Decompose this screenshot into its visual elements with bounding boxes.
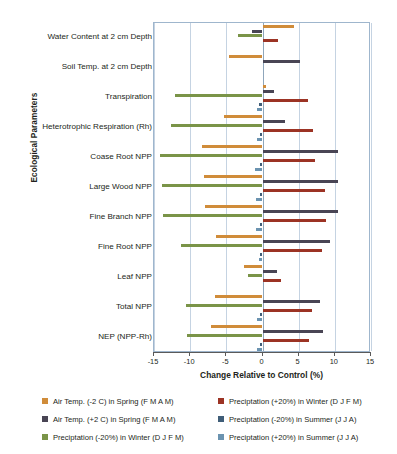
bar-segment <box>257 348 263 351</box>
bar-segment <box>187 334 262 337</box>
x-axis-tick-label: 0 <box>242 357 282 366</box>
bar <box>154 249 369 252</box>
bar-group <box>154 53 369 83</box>
bar-segment <box>211 325 262 328</box>
legend-swatch-icon <box>218 416 224 422</box>
bar-segment <box>160 154 263 157</box>
bar-segment <box>162 184 263 187</box>
category-label: Soil Temp. at 2 cm Depth <box>18 52 158 82</box>
legend-swatch-icon <box>42 434 48 440</box>
bar <box>154 343 369 346</box>
bar <box>154 69 369 72</box>
legend-label: Preciptation (-20%) in Winter (D J F M) <box>53 433 184 442</box>
bar-segment <box>263 219 327 222</box>
x-axis-tick-label: -10 <box>169 357 209 366</box>
legend-label: Air Temp. (+2 C) in Spring (F M A M) <box>53 415 175 424</box>
bar-segment <box>260 223 263 226</box>
bar <box>154 154 369 157</box>
bar <box>154 258 369 261</box>
bar <box>154 138 369 141</box>
bar <box>154 300 369 303</box>
bar-segment <box>229 55 262 58</box>
bar-segment <box>263 159 316 162</box>
bar <box>154 210 369 213</box>
bar-segment <box>256 198 263 201</box>
bar <box>154 30 369 33</box>
bar-segment <box>224 115 262 118</box>
x-axis-tick-label: 10 <box>314 357 354 366</box>
bar-segment <box>260 313 262 316</box>
bar-segment <box>257 138 262 141</box>
bar <box>154 334 369 337</box>
bar <box>154 90 369 93</box>
bar-segment <box>215 295 263 298</box>
bar-segment <box>263 330 323 333</box>
bar <box>154 103 369 106</box>
bar-group <box>154 233 369 263</box>
legend-item: Air Temp. (-2 C) in Spring (F M A M) <box>42 397 218 406</box>
bar-segment <box>257 108 262 111</box>
bar <box>154 325 369 328</box>
bar-segment <box>260 253 262 256</box>
category-label: Heterotrophic Respiration (Rh) <box>18 112 158 142</box>
bar <box>154 60 369 63</box>
bar-segment <box>263 210 338 213</box>
bar-segment <box>263 25 295 28</box>
category-label: Fine Branch NPP <box>18 202 158 232</box>
legend-label: Air Temp. (-2 C) in Spring (F M A M) <box>53 397 174 406</box>
bar <box>154 295 369 298</box>
bar-segment <box>263 99 309 102</box>
bar-group <box>154 113 369 143</box>
bar-segment <box>259 258 263 261</box>
bar <box>154 330 369 333</box>
category-label: NEP (NPP-Rh) <box>18 322 158 352</box>
bar-segment <box>257 318 263 321</box>
bar-segment <box>255 168 262 171</box>
x-axis-tick-label: -5 <box>205 357 245 366</box>
bar-segment <box>263 309 313 312</box>
bar-segment <box>181 244 263 247</box>
category-label: Large Wood NPP <box>18 172 158 202</box>
legend-swatch-icon <box>218 398 224 404</box>
bar <box>154 189 369 192</box>
bar <box>154 145 369 148</box>
bar <box>154 55 369 58</box>
bar <box>154 175 369 178</box>
bar <box>154 309 369 312</box>
bar <box>154 219 369 222</box>
bar-segment <box>260 343 262 346</box>
bar <box>154 150 369 153</box>
bar-segment <box>260 193 263 196</box>
bar-segment <box>263 129 314 132</box>
bar <box>154 43 369 46</box>
bar <box>154 124 369 127</box>
bar-group <box>154 143 369 173</box>
chart-legend: Air Temp. (-2 C) in Spring (F M A M)Prec… <box>42 392 387 446</box>
x-axis-tick <box>262 352 263 356</box>
bar <box>154 48 369 51</box>
category-label: Coase Root NPP <box>18 142 158 172</box>
bar <box>154 159 369 162</box>
bar-segment <box>263 279 282 282</box>
bar <box>154 129 369 132</box>
bar <box>154 274 369 277</box>
bar <box>154 34 369 37</box>
legend-item: Preciptation (-20%) in Winter (D J F M) <box>42 433 218 442</box>
bar-group <box>154 83 369 113</box>
x-axis-tick-label: 15 <box>350 357 390 366</box>
legend-item: Preciptation (+20%) in Summer (J J A) <box>218 433 387 442</box>
bar <box>154 99 369 102</box>
legend-label: Preciptation (+20%) in Winter (D J F M) <box>229 397 362 406</box>
bar <box>154 339 369 342</box>
bar-segment <box>216 235 262 238</box>
legend-label: Preciptation (-20%) in Summer (J J A) <box>229 415 356 424</box>
bar-group <box>154 263 369 293</box>
bar-segment <box>260 133 263 136</box>
x-axis-tick <box>153 352 154 356</box>
legend-item: Preciptation (+20%) in Winter (D J F M) <box>218 397 387 406</box>
bar <box>154 168 369 171</box>
x-axis-tick-label: -15 <box>133 357 173 366</box>
bar-segment <box>244 265 263 268</box>
bar-segment <box>263 150 339 153</box>
bar <box>154 94 369 97</box>
